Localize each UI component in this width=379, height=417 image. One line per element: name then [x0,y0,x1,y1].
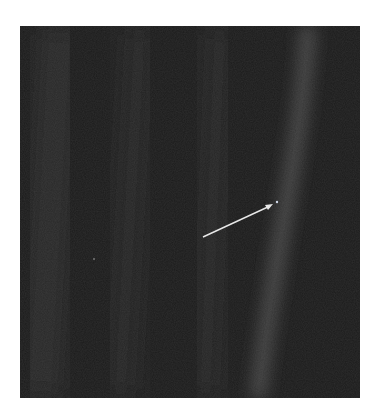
space-photo [20,26,360,398]
faint-dot [93,258,95,260]
space-photo-canvas [20,26,360,398]
pale-dot [276,201,278,203]
